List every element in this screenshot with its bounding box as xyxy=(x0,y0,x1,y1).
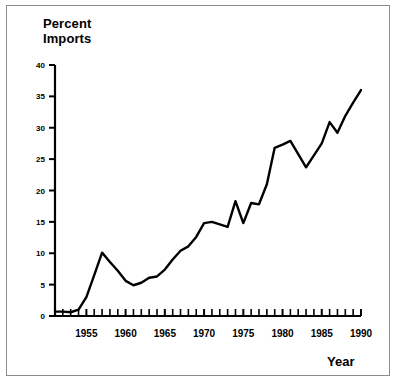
y-tick-label: 35 xyxy=(23,92,45,101)
chart-page: Percent Imports 0510152025303540 1955196… xyxy=(0,0,396,383)
chart-frame: Percent Imports 0510152025303540 1955196… xyxy=(6,5,390,376)
x-tick-label: 1990 xyxy=(341,328,381,339)
x-tick-label: 1965 xyxy=(145,328,185,339)
x-tick-label: 1970 xyxy=(184,328,224,339)
x-axis-title: Year xyxy=(327,354,354,369)
x-tick-label: 1980 xyxy=(263,328,303,339)
x-tick-label: 1955 xyxy=(66,328,106,339)
line-chart-plot xyxy=(7,6,391,377)
y-tick-label: 15 xyxy=(23,217,45,226)
x-tick-label: 1985 xyxy=(302,328,342,339)
x-tick-label: 1975 xyxy=(223,328,263,339)
x-tick-label: 1960 xyxy=(106,328,146,339)
y-tick-label: 40 xyxy=(23,61,45,70)
y-tick-label: 0 xyxy=(23,312,45,321)
data-line-percent-imports xyxy=(55,90,361,312)
y-tick-label: 20 xyxy=(23,186,45,195)
y-tick-label: 25 xyxy=(23,155,45,164)
y-tick-label: 30 xyxy=(23,123,45,132)
y-tick-label: 10 xyxy=(23,249,45,258)
y-tick-label: 5 xyxy=(23,280,45,289)
